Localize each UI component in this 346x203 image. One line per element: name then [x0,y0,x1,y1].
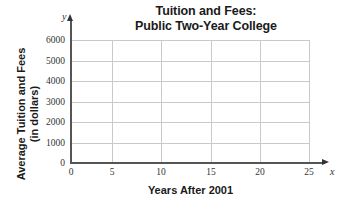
x-tick-label-25: 25 [294,167,324,177]
x-axis-letter: x [330,166,334,177]
chart-title: Tuition and Fees: Public Two-Year Colleg… [86,4,326,33]
y-axis-arrow-icon [67,14,73,21]
gridline-vertical-15 [211,40,212,163]
gridline-horizontal-2000 [71,122,310,123]
gridline-horizontal-6000 [71,40,310,41]
y-axis-letter: y [62,11,66,22]
y-axis-label: Average Tuition and Fees (in dollars) [15,34,41,194]
x-tick-label-20: 20 [245,167,275,177]
y-axis-line [70,21,72,164]
gridline-vertical-25 [309,40,310,163]
gridline-horizontal-4000 [71,81,310,82]
gridline-vertical-20 [260,40,261,163]
x-axis-label: Years After 2001 [71,184,310,196]
x-axis-arrow-icon [322,159,329,165]
chart-figure: Tuition and Fees: Public Two-Year Colleg… [0,0,346,203]
x-tick-label-10: 10 [146,167,176,177]
gridline-horizontal-3000 [71,102,310,103]
gridline-horizontal-5000 [71,61,310,62]
plot-area [71,40,310,163]
gridline-vertical-5 [112,40,113,163]
gridline-horizontal-1000 [71,143,310,144]
chart-title-line-2: Public Two-Year College [86,19,326,34]
x-tick-label-5: 5 [97,167,127,177]
y-axis-label-line-2: (in dollars) [28,34,41,194]
y-axis-label-line-1: Average Tuition and Fees [15,48,27,181]
gridline-vertical-10 [161,40,162,163]
chart-title-line-1: Tuition and Fees: [156,4,257,18]
x-tick-label-0: 0 [56,167,86,177]
x-tick-label-15: 15 [196,167,226,177]
x-axis-line [70,162,325,164]
